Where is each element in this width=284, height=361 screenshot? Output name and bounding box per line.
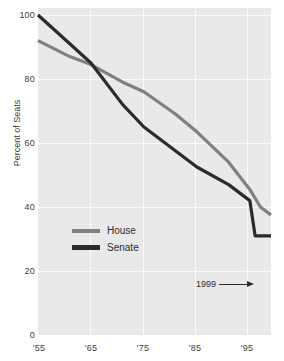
gridline-horizontal-80	[38, 79, 271, 80]
x-tick-label-1965: '65	[85, 343, 97, 353]
gridline-horizontal-60	[38, 143, 271, 144]
legend-item-senate[interactable]: Senate	[72, 239, 139, 256]
legend-item-house[interactable]: House	[72, 222, 139, 239]
arrow-shaft	[219, 284, 249, 285]
legend-swatch-house-icon	[72, 229, 100, 233]
y-tick-label-20: 20	[25, 266, 35, 276]
gridline-vertical-1965	[90, 8, 91, 335]
arrow-head	[247, 281, 254, 287]
x-tick-label-1995: '95	[241, 343, 253, 353]
gridline-horizontal-20	[38, 271, 271, 272]
y-tick-label-60: 60	[25, 138, 35, 148]
annotation-1999-label: 1999	[196, 280, 216, 289]
annotation-1999: 1999	[196, 280, 255, 289]
gridline-vertical-1975	[143, 8, 144, 335]
x-tick-label-1975: '75	[137, 343, 149, 353]
legend-label-house: House	[107, 226, 136, 236]
x-tick-label-1985: '85	[189, 343, 201, 353]
y-tick-label-0: 0	[30, 330, 35, 340]
x-tick-label-1955: '55	[33, 343, 45, 353]
legend: House Senate	[72, 222, 139, 256]
y-tick-label-40: 40	[25, 202, 35, 212]
y-tick-label-80: 80	[25, 74, 35, 84]
gridline-horizontal-100	[38, 15, 271, 16]
legend-swatch-senate-icon	[72, 245, 100, 250]
y-tick-label-100: 100	[19, 10, 35, 20]
gridline-horizontal-40	[38, 207, 271, 208]
arrow-right-icon	[219, 281, 255, 288]
chart-root: 100 80 60 40 20 0 '55 '65 '75 '85 '95 Pe…	[0, 0, 284, 361]
legend-label-senate: Senate	[107, 243, 139, 253]
y-axis-title: Percent of Seats	[12, 78, 22, 188]
